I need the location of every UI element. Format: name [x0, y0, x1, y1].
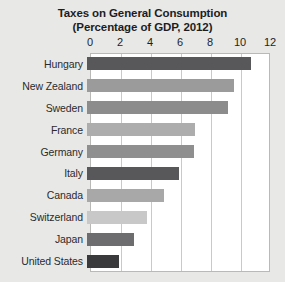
chart-subtitle: (Percentage of GDP, 2012) — [0, 20, 285, 34]
x-tick-label: 12 — [264, 36, 276, 48]
bar-row: Germany — [0, 141, 285, 163]
x-tick-label: 0 — [87, 36, 93, 48]
category-label: New Zealand — [0, 80, 87, 92]
bar-row: United States — [0, 250, 285, 272]
category-label: Sweden — [0, 102, 87, 114]
category-label: Germany — [0, 146, 87, 158]
category-label: Hungary — [0, 58, 87, 70]
bar — [87, 57, 251, 70]
bar-row: New Zealand — [0, 75, 285, 97]
bar-track — [87, 163, 267, 185]
bar — [87, 79, 234, 92]
category-label: Japan — [0, 233, 87, 245]
category-label: Canada — [0, 189, 87, 201]
x-tick-label: 6 — [177, 36, 183, 48]
bar — [87, 255, 119, 268]
bar-row: Hungary — [0, 53, 285, 75]
category-label: Italy — [0, 167, 87, 179]
bar — [87, 145, 194, 158]
x-tick-label: 2 — [117, 36, 123, 48]
bar-row: Canada — [0, 184, 285, 206]
bar — [87, 233, 134, 246]
bar-track — [87, 206, 267, 228]
bar-row: Switzerland — [0, 206, 285, 228]
bar-chart: Taxes on General Consumption (Percentage… — [0, 0, 285, 282]
bar-track — [87, 250, 267, 272]
bar-rows: HungaryNew ZealandSwedenFranceGermanyIta… — [0, 53, 285, 272]
bar-track — [87, 141, 267, 163]
bar-track — [87, 184, 267, 206]
bar-track — [87, 97, 267, 119]
x-tick-label: 10 — [234, 36, 246, 48]
chart-title: Taxes on General Consumption — [0, 6, 285, 20]
category-label: Switzerland — [0, 211, 87, 223]
x-axis-tick-labels: 024681012 — [0, 36, 285, 52]
bar-track — [87, 228, 267, 250]
bar — [87, 101, 228, 114]
bar-track — [87, 53, 267, 75]
bar — [87, 189, 164, 202]
category-label: United States — [0, 255, 87, 267]
bar-track — [87, 75, 267, 97]
bar — [87, 123, 195, 136]
bar — [87, 211, 147, 224]
bar-row: Italy — [0, 163, 285, 185]
bar-row: France — [0, 119, 285, 141]
x-tick-label: 8 — [207, 36, 213, 48]
bar-row: Japan — [0, 228, 285, 250]
bar — [87, 167, 179, 180]
x-tick-label: 4 — [147, 36, 153, 48]
bar-row: Sweden — [0, 97, 285, 119]
bar-track — [87, 119, 267, 141]
category-label: France — [0, 124, 87, 136]
